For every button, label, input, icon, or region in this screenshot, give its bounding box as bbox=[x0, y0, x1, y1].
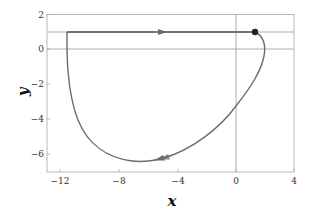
y-axis-ticks bbox=[47, 15, 50, 155]
x-axis-ticks bbox=[60, 169, 294, 172]
y-tick-label: 2 bbox=[38, 10, 44, 20]
y-tick-label: −4 bbox=[31, 114, 45, 124]
x-tick-label: 0 bbox=[233, 176, 239, 186]
marker-point bbox=[252, 29, 258, 35]
y-axis-label: y bbox=[14, 86, 32, 97]
x-tick-label: −8 bbox=[112, 176, 126, 186]
arrow-right-icon bbox=[158, 29, 167, 35]
x-tick-label: −4 bbox=[171, 176, 185, 186]
y-tick-label: −2 bbox=[31, 79, 44, 89]
plot-frame bbox=[47, 15, 294, 173]
x-tick-label: −12 bbox=[51, 176, 70, 186]
x-tick-label: 4 bbox=[291, 176, 297, 186]
phase-plot: −12 −8 −4 0 4 2 0 −2 −4 −6 x y bbox=[0, 0, 313, 215]
x-axis-label: x bbox=[167, 192, 178, 210]
y-tick-label: −6 bbox=[31, 149, 45, 159]
trajectory-loop bbox=[67, 32, 265, 161]
y-tick-label: 0 bbox=[38, 44, 44, 54]
